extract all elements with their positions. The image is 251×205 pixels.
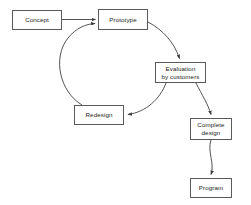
node-concept[interactable]: Concept	[12, 10, 62, 30]
node-prototype[interactable]: Prototype	[98, 9, 148, 30]
node-program[interactable]: Program	[190, 178, 232, 198]
edge-evaluation-to-redesign	[128, 83, 166, 115]
edge-complete-to-program	[210, 140, 212, 175]
edge-redesign-to-prototype	[60, 24, 95, 106]
edge-prototype-to-evaluation	[148, 22, 180, 59]
node-complete-design-label: Complete design	[197, 121, 224, 137]
node-complete-design[interactable]: Complete design	[190, 118, 232, 140]
node-evaluation-by-customers[interactable]: Evaluation by customers	[155, 62, 206, 83]
node-redesign[interactable]: Redesign	[74, 105, 124, 125]
node-program-label: Program	[199, 184, 223, 192]
node-evaluation-by-customers-label: Evaluation by customers	[162, 65, 200, 81]
node-concept-label: Concept	[25, 16, 49, 24]
edge-evaluation-to-complete	[196, 83, 211, 115]
node-prototype-label: Prototype	[109, 16, 136, 24]
connector-layer	[0, 0, 251, 205]
flowchart-canvas: Concept Prototype Evaluation by customer…	[0, 0, 251, 205]
node-redesign-label: Redesign	[86, 111, 113, 119]
